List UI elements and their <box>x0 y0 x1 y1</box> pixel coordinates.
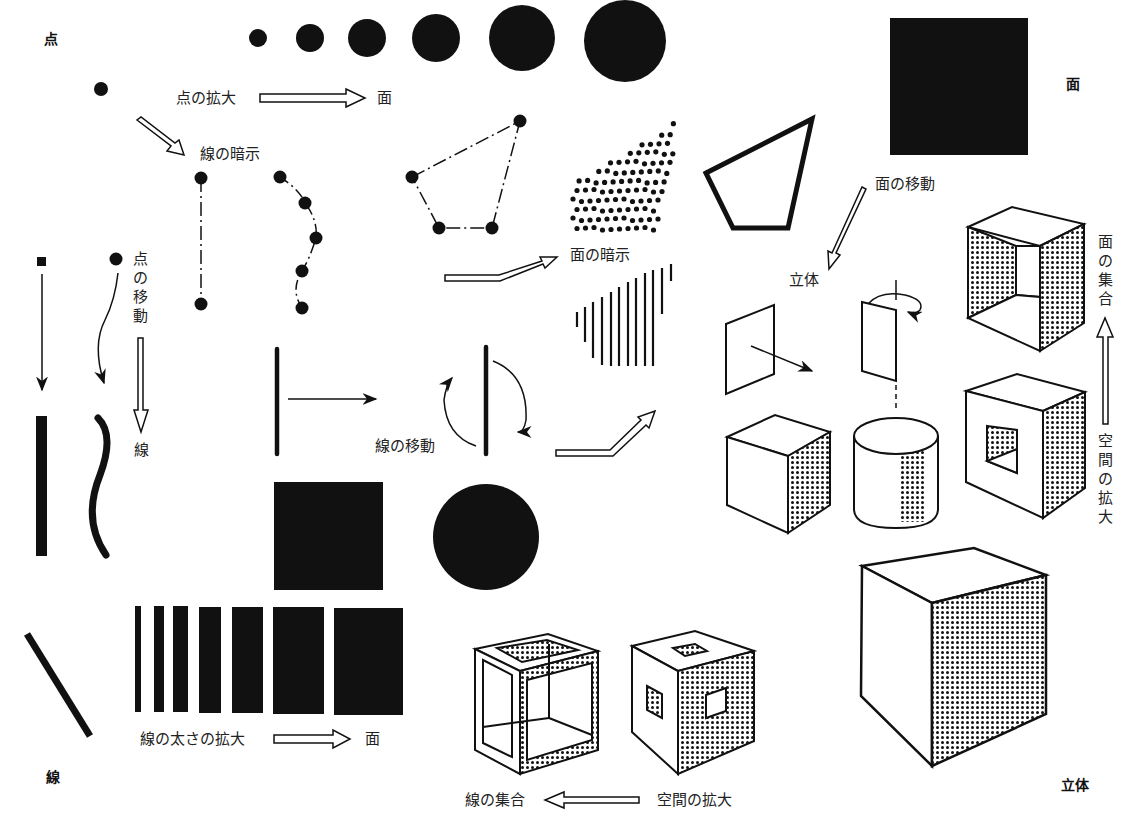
perforated-cube <box>632 631 754 774</box>
label-point-enlarge-result: 面 <box>377 91 392 106</box>
dotted-curve-suggestion <box>274 171 323 315</box>
corner-label-line: 線 <box>46 770 60 784</box>
label-space-enlarge-bottom: 空間の拡大 <box>657 793 732 808</box>
hollow-arrow-right-icon <box>260 89 365 107</box>
corner-label-solid: 立体 <box>1061 778 1089 792</box>
hollow-arrow-bent-up-2-icon <box>556 411 655 456</box>
label-line-thickness-result: 面 <box>365 732 380 747</box>
label-line-suggestion: 線の暗示 <box>200 147 260 162</box>
point-to-line-straight <box>36 257 47 556</box>
hollow-cube <box>966 374 1085 518</box>
label-line-movement: 線の移動 <box>375 439 435 454</box>
thickening-bars <box>135 606 403 715</box>
cylinder <box>854 418 938 528</box>
diagonal-line <box>27 634 90 736</box>
corner-label-point: 点 <box>44 32 58 46</box>
label-line-collection: 線の集合 <box>465 793 525 808</box>
label-point-movement: 点の移動 <box>132 250 148 326</box>
single-point <box>94 82 108 96</box>
label-space-enlarge-right: 空間の拡大 <box>1097 432 1113 527</box>
plane-translation <box>726 305 812 394</box>
hollow-arrow-bent-up-icon <box>445 257 557 281</box>
hollow-arrow-diagonal-icon <box>137 117 184 155</box>
dotted-line-suggestion <box>195 172 208 311</box>
label-plane-collection: 面の集合 <box>1097 233 1113 309</box>
hollow-arrow-right-2-icon <box>274 730 350 748</box>
hollow-arrow-down-left-icon <box>828 187 866 269</box>
hatch-field <box>577 264 671 366</box>
point-to-line-curved <box>92 253 122 556</box>
black-square <box>274 482 383 590</box>
small-cube <box>727 415 830 533</box>
plane-rotation <box>862 280 921 410</box>
hollow-arrow-up-icon <box>1097 318 1113 424</box>
frame-cube <box>475 634 598 774</box>
diagram-canvas <box>0 0 1141 829</box>
open-box <box>968 207 1084 351</box>
corner-label-plane: 面 <box>1066 77 1080 91</box>
label-plane-movement-result: 立体 <box>789 273 819 288</box>
pentagon-outline <box>706 119 812 228</box>
growing-dots <box>249 0 666 82</box>
line-translation <box>277 349 376 454</box>
hollow-arrow-down-icon <box>134 338 148 432</box>
black-circle <box>433 484 539 590</box>
label-plane-suggestion: 面の暗示 <box>570 248 630 263</box>
large-cube <box>861 548 1046 766</box>
black-square-plane <box>890 18 1028 155</box>
label-point-movement-result: 線 <box>134 443 149 458</box>
label-point-enlarge: 点の拡大 <box>176 91 236 106</box>
dot-field <box>570 121 676 232</box>
label-line-thickness-enlarge: 線の太さの拡大 <box>140 732 245 747</box>
dotted-quadrilateral <box>406 115 527 235</box>
label-plane-movement: 面の移動 <box>875 177 935 192</box>
hollow-arrow-left-icon <box>545 792 639 808</box>
line-rotation <box>444 347 526 454</box>
